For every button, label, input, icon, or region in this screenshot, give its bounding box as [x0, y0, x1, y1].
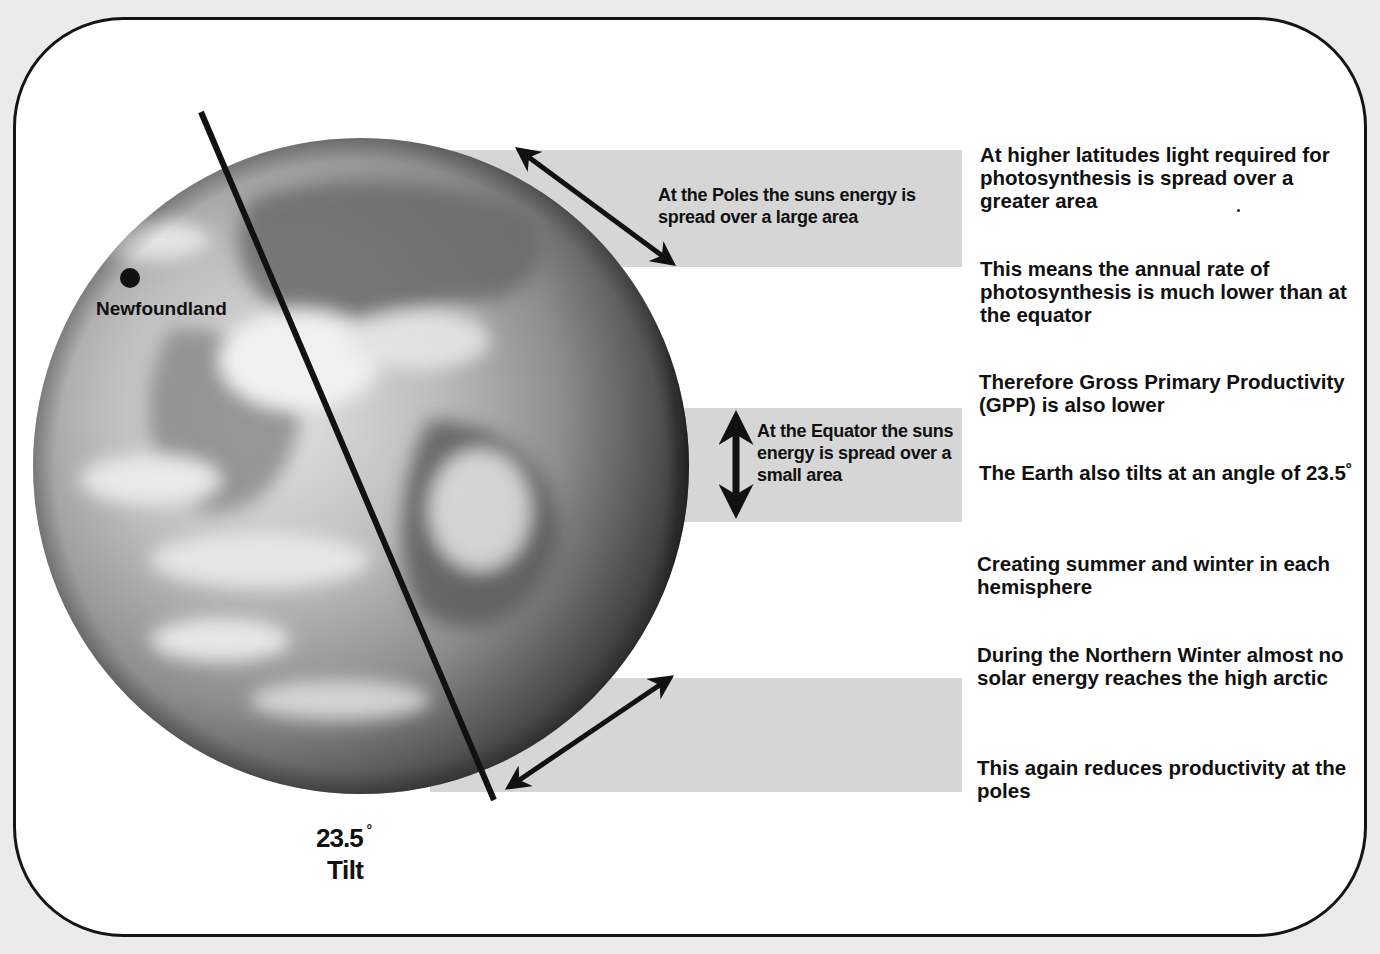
tilt-angle-value: 23.5: [316, 823, 363, 853]
newfoundland-label: Newfoundland: [96, 298, 227, 320]
diagram-stage: Newfoundland 23.5° Tilt At the Poles the…: [0, 0, 1380, 954]
tilt-angle-label: 23.5°: [316, 822, 371, 854]
note-earth-tilt: The Earth also tilts at an angle of 23.5…: [979, 461, 1367, 484]
note-reduced-productivity: This again reduces productivity at the p…: [977, 756, 1365, 802]
equator-annotation: At the Equator the suns energy is spread…: [757, 420, 957, 486]
poles-annotation: At the Poles the suns energy is spread o…: [658, 184, 958, 228]
note-annual-rate: This means the annual rate of photosynth…: [980, 257, 1368, 326]
stray-dot: [1237, 209, 1240, 212]
note-northern-winter: During the Northern Winter almost no sol…: [977, 643, 1365, 689]
note-higher-latitudes: At higher latitudes light required for p…: [980, 143, 1368, 212]
note-seasons: Creating summer and winter in each hemis…: [977, 552, 1365, 598]
location-dot-icon: [120, 268, 140, 288]
note-gpp-lower: Therefore Gross Primary Productivity (GP…: [979, 370, 1367, 416]
degree-symbol: °: [367, 822, 372, 838]
tilt-word-label: Tilt: [327, 855, 364, 886]
